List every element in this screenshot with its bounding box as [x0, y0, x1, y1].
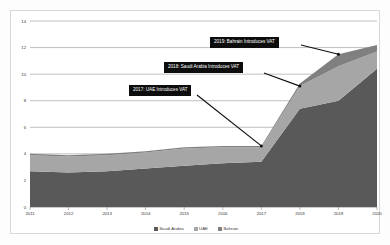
legend-label: Bahrain [223, 226, 238, 231]
annotation-bahrain-vat: 2019: Bahrain Introduces VAT [210, 37, 279, 48]
legend-item-uae[interactable]: UAE [194, 226, 208, 231]
y-axis-tick-label: 10 [12, 72, 26, 77]
x-axis-tick-label: 2020 [364, 211, 390, 216]
leader-line-ann-2019-bahrain [301, 45, 338, 54]
y-axis-tick-label: 14 [12, 19, 26, 24]
y-axis-tick-label: 2 [12, 178, 26, 183]
legend-item-bahrain[interactable]: Bahrain [218, 226, 238, 231]
x-axis-tick-label: 2015 [171, 211, 197, 216]
x-axis-tick-label: 2012 [56, 211, 82, 216]
x-axis-tick-label: 2011 [17, 211, 43, 216]
x-axis-tick-label: 2014 [133, 211, 159, 216]
x-axis-tick-label: 2013 [94, 211, 120, 216]
legend-swatch-icon [218, 227, 222, 231]
leader-line-ann-2018-saudi [264, 73, 300, 86]
leader-endpoint-ann-2019-bahrain [337, 53, 340, 56]
y-axis-tick-label: 6 [12, 125, 26, 130]
y-axis-tick-label: 12 [12, 45, 26, 50]
annotation-saudi-vat: 2018: Saudi Arabia Introduces VAT [164, 62, 243, 73]
legend-swatch-icon [194, 227, 198, 231]
x-axis-tick-label: 2017 [248, 211, 274, 216]
annotation-uae-vat: 2017: UAE Introduces VAT [129, 85, 191, 96]
legend-label: UAE [199, 226, 208, 231]
x-axis-tick-label: 2018 [287, 211, 313, 216]
legend-item-saudi-arabia[interactable]: Saudi Arabia [154, 226, 184, 231]
x-axis-tick-label: 2016 [210, 211, 236, 216]
stacked-area-chart [11, 11, 381, 235]
x-axis-tick-label: 2019 [325, 211, 351, 216]
leader-line-ann-2017-uae [197, 95, 261, 146]
leader-endpoint-ann-2018-saudi [298, 85, 301, 88]
chart-legend: Saudi ArabiaUAEBahrain [11, 226, 381, 231]
legend-swatch-icon [154, 227, 158, 231]
y-axis-tick-label: 0 [12, 205, 26, 210]
chart-container: 14121086420 2011201220132014201520162017… [10, 10, 380, 234]
leader-endpoint-ann-2017-uae [260, 144, 263, 147]
legend-label: Saudi Arabia [159, 226, 183, 231]
y-axis-tick-label: 8 [12, 98, 26, 103]
y-axis-tick-label: 4 [12, 151, 26, 156]
